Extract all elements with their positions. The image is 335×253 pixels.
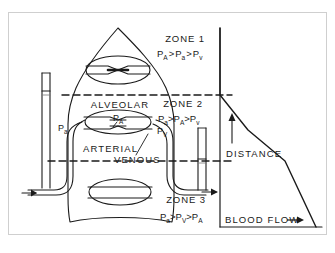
venous-label: VENOUS (114, 154, 161, 165)
zone-3-label: ZONE 3 (166, 194, 206, 205)
zone-1-gt2: > (186, 48, 192, 59)
figure-root: ZONE 1 PA>Pa>Pv ZONE 2 Pa>PA>Pv ZONE 3 P… (0, 0, 335, 253)
zone-1-p1-sub: A (163, 54, 168, 61)
zone-2-label: ZONE 2 (163, 98, 203, 109)
arterial-label: ARTERIAL (83, 143, 138, 154)
zone-1-p2-sub: a (182, 54, 186, 61)
zone-3-p3-sub: A (198, 217, 203, 224)
zone-1-label: ZONE 1 (165, 33, 205, 44)
distance-label: DISTANCE (226, 148, 282, 159)
zone-1-gt1: > (169, 48, 175, 59)
p-arterial-sub: a (64, 128, 68, 135)
alveolar-label: ALVEOLAR (91, 99, 149, 110)
zone-2-pressure-relation: Pa>PA>Pv (158, 113, 200, 126)
svg-text:Pa>PA>Pv: Pa>PA>Pv (158, 113, 200, 126)
west-zones-diagram: ZONE 1 PA>Pa>Pv ZONE 2 Pa>PA>Pv ZONE 3 P… (0, 0, 335, 253)
